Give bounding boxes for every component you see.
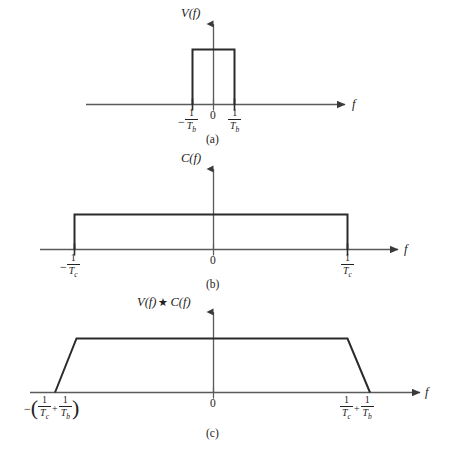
panel-a-y-axis-title: V(f) xyxy=(181,7,200,20)
panel-c-x-axis-label: f xyxy=(425,386,428,399)
signal-spectrum-figure: V(f) f 0 −1Tb 1Tb (a) C(f) f 0 −1Tc 1Tc … xyxy=(0,0,464,453)
panel-c-caption: (c) xyxy=(206,428,219,440)
panel-a-tick-label-positive: 1Tb xyxy=(228,109,241,135)
panel-c-y-axis-title: V(f)★C(f) xyxy=(137,296,191,309)
panel-b-caption: (b) xyxy=(206,279,219,291)
panel-c-tick-label-negative: −(1Tc+1Tb) xyxy=(24,396,79,422)
panel-b-x-axis-label: f xyxy=(404,243,407,256)
panel-b-axes xyxy=(40,169,398,250)
panel-b-waveform xyxy=(75,215,348,250)
panel-b-tick-label-zero: 0 xyxy=(210,255,216,267)
figure-vector-graphics xyxy=(0,0,464,453)
panel-b-tick-label-positive: 1Tc xyxy=(341,254,354,280)
panel-a-tick-label-zero: 0 xyxy=(210,110,216,122)
panel-c-axes xyxy=(30,312,420,393)
panel-c-tick-label-positive: 1Tc+1Tb xyxy=(340,396,374,422)
panel-c-tick-label-zero: 0 xyxy=(210,398,216,410)
panel-b-y-axis-title: C(f) xyxy=(181,152,201,165)
convolution-star-icon: ★ xyxy=(156,296,170,308)
panel-b-tick-label-negative: −1Tc xyxy=(60,254,80,280)
panel-a-caption: (a) xyxy=(206,134,219,146)
panel-a-tick-label-negative: −1Tb xyxy=(178,109,198,135)
panel-c-waveform xyxy=(55,339,370,393)
panel-a-x-axis-label: f xyxy=(352,98,355,111)
panel-a-axes xyxy=(86,24,345,105)
